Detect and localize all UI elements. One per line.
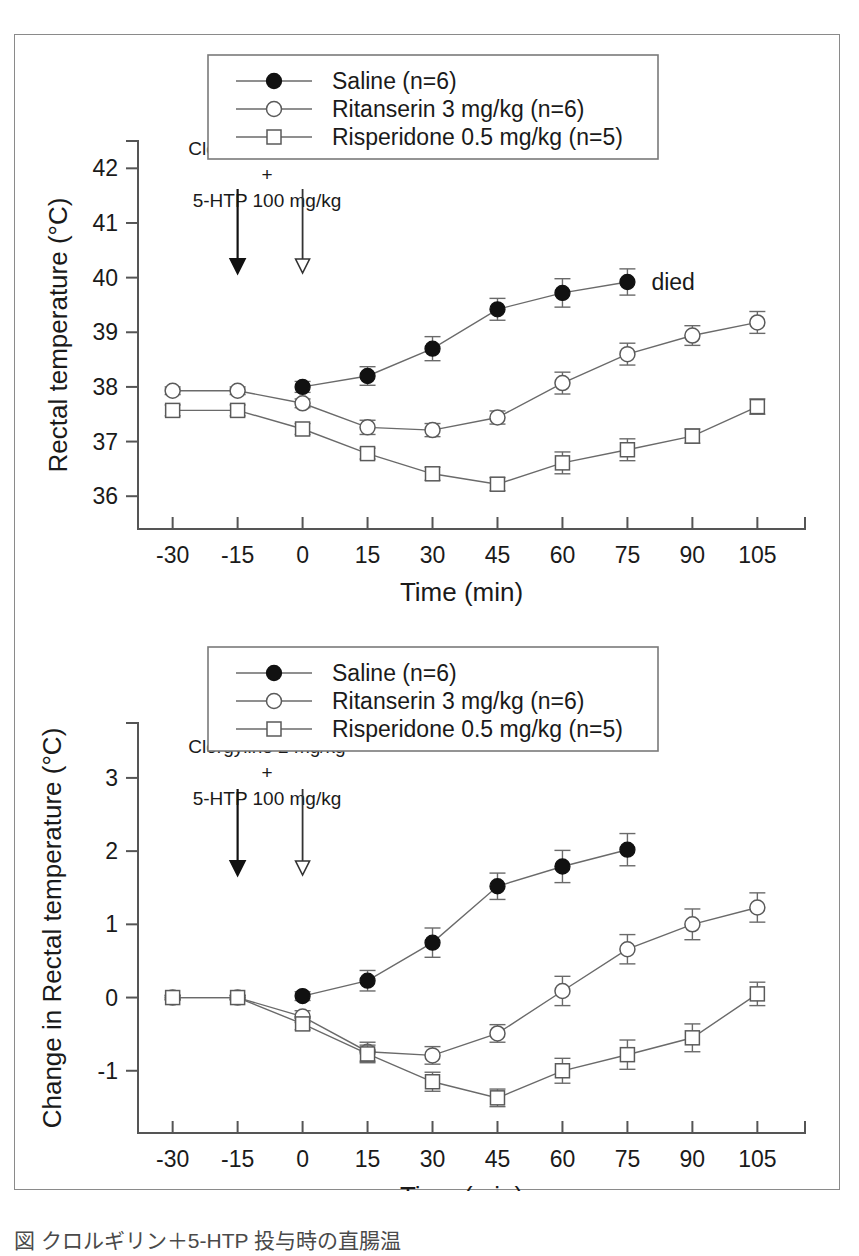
data-point	[685, 917, 700, 932]
data-point	[360, 973, 375, 988]
data-point	[295, 989, 310, 1004]
data-point	[555, 285, 570, 300]
data-point	[620, 443, 634, 457]
x-axis-ticks: -30-150153045607590105	[156, 517, 805, 568]
legend-label: Ritanserin 3 mg/kg (n=6)	[332, 688, 584, 714]
y-tick-label: 36	[92, 483, 118, 509]
data-point	[425, 935, 440, 950]
drug-annotation-line: 5-HTP 100 mg/kg	[193, 190, 342, 211]
y-tick-label: 1	[105, 911, 118, 937]
data-point	[555, 859, 570, 874]
y-axis-ticks: 36373839404142	[92, 141, 138, 509]
legend-marker	[267, 722, 281, 736]
x-tick-label: 30	[420, 1146, 446, 1172]
data-point	[425, 1048, 440, 1063]
drug-annotation-line: +	[261, 762, 272, 783]
x-tick-label: 105	[738, 1146, 776, 1172]
axes	[138, 723, 805, 1133]
series-line	[303, 850, 628, 996]
data-point	[750, 900, 765, 915]
data-point	[750, 400, 764, 414]
x-tick-label: 75	[615, 542, 641, 568]
data-point	[620, 274, 635, 289]
x-tick-label: 90	[680, 542, 706, 568]
x-tick-label: 15	[355, 1146, 381, 1172]
data-point	[360, 368, 375, 383]
x-tick-label: -30	[156, 1146, 189, 1172]
axis-lines	[138, 723, 805, 1133]
series-2	[165, 893, 766, 1064]
x-axis-ticks: -30-150153045607590105	[156, 1121, 805, 1172]
data-point	[490, 1026, 505, 1041]
legend-marker	[267, 694, 282, 709]
figure-frame: 36373839404142-30-150153045607590105Time…	[14, 34, 840, 1190]
y-tick-label: 37	[92, 429, 118, 455]
x-tick-label: 15	[355, 542, 381, 568]
data-point	[490, 410, 505, 425]
y-tick-label: 2	[105, 838, 118, 864]
series-line	[303, 282, 628, 387]
chart-panel-bottom: -10123-30-150153045607590105Time (min)Ch…	[15, 613, 841, 1191]
data-point	[620, 347, 635, 362]
figure-caption-strip: 図 クロルギリン＋5-HTP 投与時の直腸温	[14, 1228, 840, 1256]
legend: Saline (n=6)Ritanserin 3 mg/kg (n=6)Risp…	[208, 55, 658, 159]
data-point	[490, 302, 505, 317]
series-3	[165, 399, 766, 491]
y-tick-label: 3	[105, 765, 118, 791]
data-point	[555, 1064, 569, 1078]
x-tick-label: 90	[680, 1146, 706, 1172]
data-point	[426, 1075, 440, 1089]
x-tick-label: 75	[615, 1146, 641, 1172]
data-point	[295, 379, 310, 394]
data-point	[296, 422, 310, 436]
x-tick-label: 45	[485, 542, 511, 568]
y-axis-title: Change in Rectal temperature (°C)	[37, 728, 67, 1129]
series-line	[173, 407, 758, 485]
chart-panel-top: 36373839404142-30-150153045607590105Time…	[15, 35, 841, 613]
data-point	[685, 328, 700, 343]
legend-marker	[267, 130, 281, 144]
legend-label: Saline (n=6)	[332, 68, 457, 94]
y-tick-label: 42	[92, 155, 118, 181]
died-label: died	[651, 269, 694, 295]
y-tick-label: 38	[92, 374, 118, 400]
data-point	[750, 987, 764, 1001]
legend-label: Saline (n=6)	[332, 660, 457, 686]
data-point	[490, 1091, 504, 1105]
data-point	[296, 1017, 310, 1031]
x-tick-label: -15	[221, 1146, 254, 1172]
arrow-head	[296, 259, 310, 273]
data-point	[360, 420, 375, 435]
data-point	[490, 879, 505, 894]
data-point	[425, 423, 440, 438]
data-point	[165, 383, 180, 398]
legend-marker	[267, 666, 282, 681]
x-tick-label: 60	[550, 542, 576, 568]
data-point	[555, 376, 570, 391]
drug-annotation-line: +	[261, 164, 272, 185]
arrow-head	[231, 259, 245, 273]
data-point	[231, 403, 245, 417]
series-1	[295, 269, 636, 395]
arrow-head	[296, 861, 310, 875]
legend-label: Risperidone 0.5 mg/kg (n=5)	[332, 124, 623, 150]
series-1	[295, 834, 636, 1004]
data-point	[685, 429, 699, 443]
legend-label: Ritanserin 3 mg/kg (n=6)	[332, 96, 584, 122]
data-point	[555, 456, 569, 470]
drug-annotation-line: 5-HTP 100 mg/kg	[193, 788, 342, 809]
x-tick-label: -15	[221, 542, 254, 568]
data-point	[361, 1047, 375, 1061]
figure-caption: 図 クロルギリン＋5-HTP 投与時の直腸温	[14, 1229, 401, 1252]
series-line	[173, 994, 758, 1098]
x-tick-label: 30	[420, 542, 446, 568]
y-tick-label: 39	[92, 319, 118, 345]
x-tick-label: 0	[296, 1146, 309, 1172]
x-tick-label: 0	[296, 542, 309, 568]
series-line	[173, 908, 758, 1056]
y-tick-label: 0	[105, 985, 118, 1011]
x-tick-label: 105	[738, 542, 776, 568]
legend: Saline (n=6)Ritanserin 3 mg/kg (n=6)Risp…	[208, 647, 658, 751]
chart-bottom: -10123-30-150153045607590105Time (min)Ch…	[15, 613, 841, 1191]
data-point	[295, 396, 310, 411]
